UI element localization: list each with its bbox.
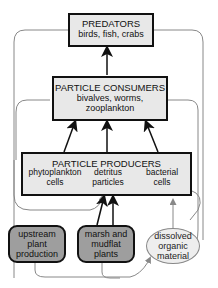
particle-consumers-box: PARTICLE CONSUMERS bivalves, worms, zoop…	[52, 76, 168, 121]
phytoplankton-label: phytoplankton cells	[25, 167, 85, 187]
predators-title: PREDATORS	[70, 19, 152, 29]
predators-box: PREDATORS birds, fish, crabs	[68, 13, 154, 47]
predators-subtitle: birds, fish, crabs	[70, 29, 152, 39]
marsh-mudflat-box: marsh and mudflat plants	[77, 225, 135, 263]
consumers-line1: bivalves, worms,	[54, 93, 166, 103]
consumers-title: PARTICLE CONSUMERS	[54, 83, 166, 93]
detritus-label: detritus particles	[88, 167, 128, 187]
bacterial-label: bacterial cells	[142, 167, 182, 187]
dissolved-organic-ellipse: dissolved organic material	[146, 228, 200, 264]
consumers-line2: zooplankton	[54, 103, 166, 113]
upstream-plant-box: upstream plant production	[8, 225, 66, 263]
